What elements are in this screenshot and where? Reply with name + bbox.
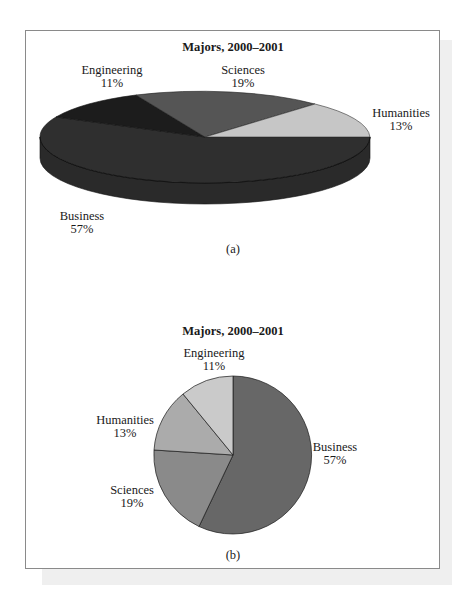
label-engineering-b: Engineering 11% (183, 347, 244, 373)
label-humanities-a: Humanities 13% (372, 107, 430, 133)
chart-b-caption: (b) (226, 548, 241, 563)
label-pct: 11% (81, 77, 142, 90)
label-business-b: Business 57% (313, 441, 357, 467)
label-pct: 11% (183, 360, 244, 373)
label-pct: 13% (96, 427, 154, 440)
chart-a-caption: (a) (226, 242, 240, 257)
pie-2d (154, 376, 312, 534)
label-business-a: Business 57% (60, 210, 104, 236)
label-engineering-a: Engineering 11% (81, 64, 142, 90)
chart-a-title: Majors, 2000–2001 (182, 40, 283, 55)
label-sciences-b: Sciences 19% (110, 484, 154, 510)
label-pct: 19% (110, 497, 154, 510)
label-pct: 57% (313, 454, 357, 467)
chart-b-title: Majors, 2000–2001 (182, 324, 283, 339)
label-pct: 19% (221, 77, 265, 90)
label-sciences-a: Sciences 19% (221, 64, 265, 90)
label-pct: 57% (60, 223, 104, 236)
pie-3d (40, 91, 370, 204)
label-pct: 13% (372, 120, 430, 133)
label-humanities-b: Humanities 13% (96, 414, 154, 440)
